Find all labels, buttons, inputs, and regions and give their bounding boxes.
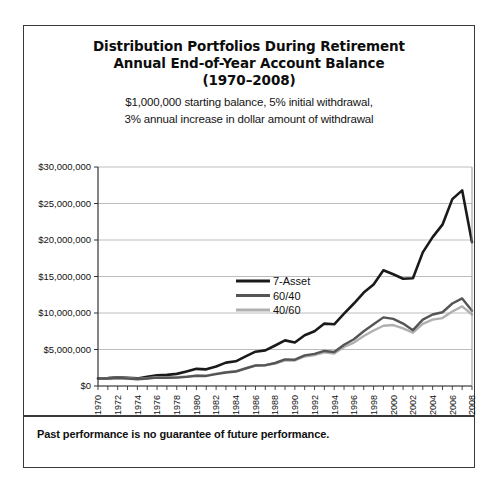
x-axis-label: 1978: [172, 395, 182, 415]
x-axis-labels-group: 1970197219741976197819801982198419861988…: [93, 395, 476, 415]
x-axis-label: 1986: [251, 395, 261, 415]
y-axis-label: $25,000,000: [38, 198, 91, 209]
line-chart-svg: $0$5,000,000$10,000,000$15,000,000$20,00…: [24, 26, 476, 469]
x-axis-label: 1980: [192, 395, 202, 415]
y-axis-label: $20,000,000: [38, 234, 91, 245]
x-axis-label: 1990: [290, 395, 300, 415]
x-axis-label: 1996: [349, 395, 359, 415]
y-axis-label: $15,000,000: [38, 271, 91, 282]
y-axis-label: $10,000,000: [38, 307, 91, 318]
x-axis-label: 1984: [231, 395, 241, 415]
x-axis-label: 1992: [310, 395, 320, 415]
x-axis-label: 2004: [428, 395, 438, 415]
x-axis-label: 1970: [93, 395, 103, 415]
legend-label-7-asset: 7-Asset: [273, 275, 310, 287]
legend-label-60-40: 60/40: [273, 290, 301, 302]
plot-area-wrapper: $0$5,000,000$10,000,000$15,000,000$20,00…: [24, 26, 476, 469]
x-axis-label: 1974: [133, 395, 143, 415]
legend-label-40-60: 40/60: [273, 304, 301, 316]
x-axis-label: 1988: [270, 395, 280, 415]
series-line-40-60: [98, 306, 472, 378]
y-axis-label: $0: [80, 380, 91, 391]
y-axis-label: $30,000,000: [38, 161, 91, 172]
x-axis-label: 2002: [408, 395, 418, 415]
disclaimer-text: Past performance is no guarantee of futu…: [37, 428, 329, 440]
x-axis-label: 2000: [389, 395, 399, 415]
chart-legend: 7-Asset60/4040/60: [236, 275, 310, 316]
x-axis-label: 1994: [330, 395, 340, 415]
x-axis-label: 1976: [152, 395, 162, 415]
y-axis-label: $5,000,000: [43, 344, 91, 355]
x-axis-label: 2008: [467, 395, 476, 415]
x-axis-label: 1972: [113, 395, 123, 415]
x-axis-label: 1982: [211, 395, 221, 415]
footer-divider: [24, 415, 474, 417]
x-axis-label: 1998: [369, 395, 379, 415]
chart-figure: Distribution Portfolios During Retiremen…: [23, 25, 475, 468]
x-axis-label: 2006: [448, 395, 458, 415]
y-axis-labels-group: $0$5,000,000$10,000,000$15,000,000$20,00…: [38, 161, 91, 391]
